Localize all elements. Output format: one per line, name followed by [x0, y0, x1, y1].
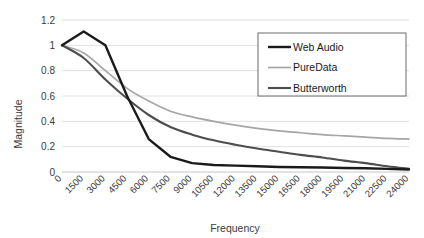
x-tick-label: 24000 [384, 173, 410, 199]
x-tick-label: 15000 [254, 173, 280, 199]
x-tick-label: 22500 [362, 173, 388, 199]
chart-legend: Web AudioPureDataButterworth [258, 33, 406, 96]
y-tick-label: 0.2 [41, 141, 55, 152]
x-tick-label: 21000 [341, 173, 367, 199]
x-tick-label: 10500 [189, 173, 215, 199]
x-tick-label: 19500 [319, 173, 345, 199]
x-tick-label: 4500 [106, 173, 129, 196]
y-axis-title: Magnitude [12, 99, 24, 148]
x-axis-tick-labels: 0150030004500600075009000105001200013500… [52, 173, 411, 199]
x-axis-title: Frequency [210, 222, 260, 234]
x-tick-label: 7500 [149, 173, 172, 196]
y-tick-label: 0.4 [41, 116, 55, 127]
frequency-response-chart: 00.20.40.60.811.2 0150030004500600075009… [0, 0, 424, 238]
y-tick-label: 1.2 [41, 15, 55, 26]
x-tick-label: 1500 [62, 173, 85, 196]
x-tick-label: 12000 [210, 173, 236, 199]
x-tick-label: 0 [52, 173, 64, 185]
y-tick-label: 1 [49, 40, 55, 51]
y-axis-tick-labels: 00.20.40.60.811.2 [41, 15, 55, 178]
y-tick-label: 0.8 [41, 65, 55, 76]
y-tick-label: 0.6 [41, 91, 55, 102]
x-tick-label: 16500 [276, 173, 302, 199]
x-tick-label: 13500 [232, 173, 258, 199]
x-tick-label: 18000 [297, 173, 323, 199]
legend-label-puredata: PureData [293, 61, 338, 73]
x-tick-label: 6000 [127, 173, 150, 196]
legend-label-web-audio: Web Audio [293, 41, 344, 53]
x-tick-label: 3000 [84, 173, 107, 196]
legend-label-butterworth: Butterworth [293, 82, 347, 94]
chart-container: 00.20.40.60.811.2 0150030004500600075009… [0, 0, 424, 238]
